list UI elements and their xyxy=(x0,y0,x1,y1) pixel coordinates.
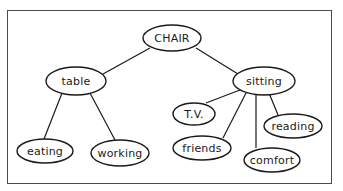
node-reading: reading xyxy=(264,114,322,138)
edge-chair-sitting xyxy=(196,48,238,74)
node-friends: friends xyxy=(173,136,231,160)
node-working: working xyxy=(91,140,149,166)
node-table-label: table xyxy=(62,75,91,88)
edge-sitting-friends xyxy=(223,93,246,138)
node-tv: T.V. xyxy=(173,103,215,125)
node-tv-label: T.V. xyxy=(183,108,203,121)
node-chair: CHAIR xyxy=(143,25,201,51)
node-comfort: comfort xyxy=(244,148,300,172)
edges-group xyxy=(44,48,278,148)
edge-table-working xyxy=(90,93,115,140)
node-table: table xyxy=(46,67,106,95)
node-chair-label: CHAIR xyxy=(154,32,190,45)
nodes-group: CHAIRtablesittingeatingworkingT.V.friend… xyxy=(17,25,322,172)
edge-sitting-reading xyxy=(269,93,278,115)
edge-table-eating xyxy=(44,93,62,139)
node-eating-label: eating xyxy=(27,145,63,158)
node-eating: eating xyxy=(17,139,73,163)
node-sitting: sitting xyxy=(233,67,295,95)
concept-map-svg: CHAIRtablesittingeatingworkingT.V.friend… xyxy=(0,0,343,191)
edge-chair-table xyxy=(103,48,150,74)
node-friends-label: friends xyxy=(182,142,221,155)
node-reading-label: reading xyxy=(271,120,314,133)
concept-map-canvas: CHAIRtablesittingeatingworkingT.V.friend… xyxy=(0,0,343,191)
edge-sitting-tv xyxy=(206,90,240,103)
node-sitting-label: sitting xyxy=(246,75,282,88)
node-working-label: working xyxy=(97,147,142,160)
node-comfort-label: comfort xyxy=(250,154,295,167)
